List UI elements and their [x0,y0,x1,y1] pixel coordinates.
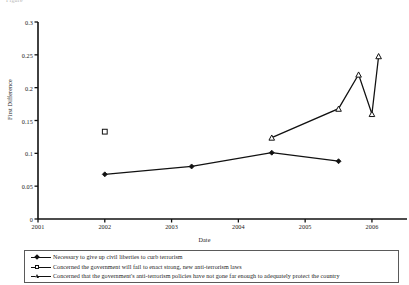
series-line [272,56,379,137]
data-point-marker [336,106,342,111]
data-point-marker [376,54,382,59]
data-point-marker [269,135,275,140]
legend-marker-glyph [35,274,39,278]
y-axis-tick-label: 0.1 [3,150,33,157]
data-point-marker [102,172,107,177]
chart-page: Figure First Difference Date 00.050.10.1… [0,0,409,285]
legend-item[interactable]: Concerned the government will fail to en… [29,263,398,273]
plot-svg [0,0,409,250]
y-axis-tick-label: 0.3 [3,19,33,26]
x-axis-tick-label: 2001 [18,223,58,230]
x-axis-tick-label: 2002 [85,223,125,230]
legend-marker-filled-diamond-icon [29,253,53,262]
data-point-marker [356,72,362,77]
legend-item[interactable]: Concerned that the government's anti-ter… [29,272,398,282]
x-axis-tick-label: 2006 [352,223,392,230]
y-axis-title: First Difference [6,65,13,135]
data-point-marker [189,164,194,169]
legend-marker-open-square-icon [29,263,53,272]
y-axis-tick-label: 0.05 [3,183,33,190]
y-axis-tick-label: 0 [3,216,33,223]
x-axis-tick-label: 2003 [152,223,192,230]
y-axis-tick-label: 0.25 [3,51,33,58]
legend-label: Necessary to give up civil liberties to … [53,253,183,262]
legend-label: Concerned the government will fail to en… [53,263,242,272]
x-axis-tick-label: 2005 [285,223,325,230]
data-point-marker [102,129,107,134]
legend-marker-glyph [34,254,40,260]
legend-marker-glyph [35,265,39,269]
x-axis-tick-label: 2004 [218,223,258,230]
legend-line [31,267,51,268]
data-point-marker [336,159,341,164]
x-axis-title: Date [0,236,409,243]
legend-item[interactable]: Necessary to give up civil liberties to … [29,253,398,263]
data-point-marker [269,150,274,155]
series-line [105,153,339,175]
chart-series-0 [105,153,339,175]
chart-legend: Necessary to give up civil liberties to … [24,250,399,283]
legend-line [31,276,51,277]
y-axis-tick-label: 0.2 [3,84,33,91]
plot-area: First Difference Date 00.050.10.150.20.2… [0,0,409,250]
legend-marker-open-triangle-icon [29,272,53,281]
chart-series-2 [272,56,379,137]
data-point-marker [369,111,375,116]
legend-label: Concerned that the government's anti-ter… [53,272,340,281]
y-axis-tick-label: 0.15 [3,117,33,124]
